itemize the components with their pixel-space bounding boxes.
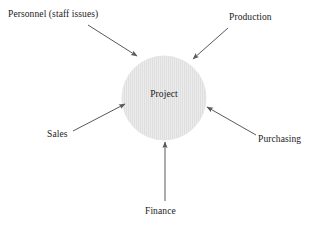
diagram-canvas: Personnel (staff issues) Production Sale… <box>0 0 322 228</box>
diagram-graphics <box>0 0 322 228</box>
node-label-finance: Finance <box>145 206 176 216</box>
arrow-sales-to-project <box>73 104 125 131</box>
node-label-production: Production <box>229 12 272 22</box>
node-label-sales: Sales <box>47 129 68 139</box>
arrow-personnel-to-project <box>88 25 137 56</box>
project-center-label: Project <box>124 89 204 99</box>
node-label-purchasing: Purchasing <box>258 134 301 144</box>
arrow-purchasing-to-project <box>207 107 256 135</box>
arrow-production-to-project <box>193 28 228 59</box>
node-label-personnel: Personnel (staff issues) <box>8 9 98 19</box>
